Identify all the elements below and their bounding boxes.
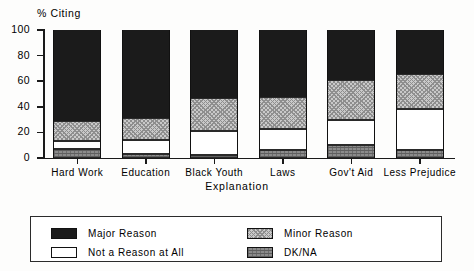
legend-item-none: Not a Reason at All — [51, 245, 184, 259]
legend-swatch-major-reason — [51, 228, 77, 239]
x-tick-4 — [351, 158, 353, 164]
legend-swatch-minor-reason — [247, 228, 273, 239]
legend-label-not-a-reason: Not a Reason at All — [88, 247, 184, 258]
bar-segment-dkna — [328, 145, 374, 158]
bar-segment-minor — [397, 74, 443, 110]
y-tick-label-60: 60 — [0, 74, 30, 86]
bar-segment-minor — [54, 121, 100, 141]
bar-segment-dkna — [397, 150, 443, 158]
x-axis-label-1: Education — [121, 167, 170, 178]
bar-segment-none — [328, 120, 374, 146]
y-tick-60 — [37, 80, 44, 82]
x-axis-line — [43, 158, 455, 160]
legend-swatch-not-a-reason — [51, 247, 77, 258]
bar-segment-minor — [191, 98, 237, 131]
bar-segment-none — [123, 140, 169, 154]
y-tick-80 — [37, 55, 44, 57]
bar-segment-dkna — [54, 149, 100, 158]
legend-label-major-reason: Major Reason — [88, 228, 157, 239]
y-axis-line — [43, 29, 45, 159]
bar-segment-none — [54, 141, 100, 149]
x-axis-title: Explanation — [0, 180, 474, 192]
legend-label-minor-reason: Minor Reason — [284, 228, 353, 239]
y-tick-0 — [37, 157, 44, 159]
bar-segment-dkna — [260, 150, 306, 158]
y-tick-label-80: 80 — [0, 49, 30, 61]
x-axis-label-5: Less Prejudice — [383, 167, 456, 178]
legend-label-dk-na: DK/NA — [284, 247, 317, 258]
x-tick-3 — [282, 158, 284, 164]
bar-less-prejudice — [396, 30, 444, 158]
x-tick-2 — [214, 158, 216, 164]
x-axis-label-0: Hard Work — [51, 167, 103, 178]
x-tick-0 — [77, 158, 79, 164]
legend-swatch-dk-na — [247, 247, 273, 258]
y-tick-100 — [37, 29, 44, 31]
y-tick-label-20: 20 — [0, 125, 30, 137]
bar-segment-minor — [328, 80, 374, 120]
bar-gov-t-aid — [327, 30, 375, 158]
bar-segment-none — [191, 131, 237, 155]
bar-segment-minor — [123, 118, 169, 140]
bar-segment-minor — [260, 97, 306, 129]
x-axis-label-2: Black Youth — [185, 167, 243, 178]
bar-segment-none — [397, 109, 443, 150]
bar-segment-major — [191, 30, 237, 98]
bar-black-youth — [190, 30, 238, 158]
bar-segment-major — [260, 30, 306, 97]
x-tick-5 — [419, 158, 421, 164]
bar-segment-major — [123, 30, 169, 118]
x-axis-label-4: Gov't Aid — [329, 167, 373, 178]
bar-education — [122, 30, 170, 158]
legend-item-dkna: DK/NA — [247, 245, 317, 259]
bar-segment-none — [260, 129, 306, 151]
y-tick-label-40: 40 — [0, 100, 30, 112]
chart-legend: Major Reason Minor Reason Not a Reason a… — [30, 216, 442, 262]
chart-figure: % Citing 020406080100 Hard WorkEducation… — [0, 0, 474, 271]
legend-item-major: Major Reason — [51, 226, 157, 240]
bar-segment-major — [328, 30, 374, 80]
y-tick-label-0: 0 — [0, 151, 30, 163]
bar-segment-major — [54, 30, 100, 121]
y-tick-label-100: 100 — [0, 23, 30, 35]
x-axis-label-3: Laws — [270, 167, 295, 178]
legend-item-minor: Minor Reason — [247, 226, 353, 240]
x-tick-1 — [145, 158, 147, 164]
y-tick-40 — [37, 106, 44, 108]
bar-hard-work — [53, 30, 101, 158]
bar-laws — [259, 30, 307, 158]
y-axis-title: % Citing — [37, 7, 81, 19]
y-tick-20 — [37, 132, 44, 134]
bar-segment-major — [397, 30, 443, 74]
